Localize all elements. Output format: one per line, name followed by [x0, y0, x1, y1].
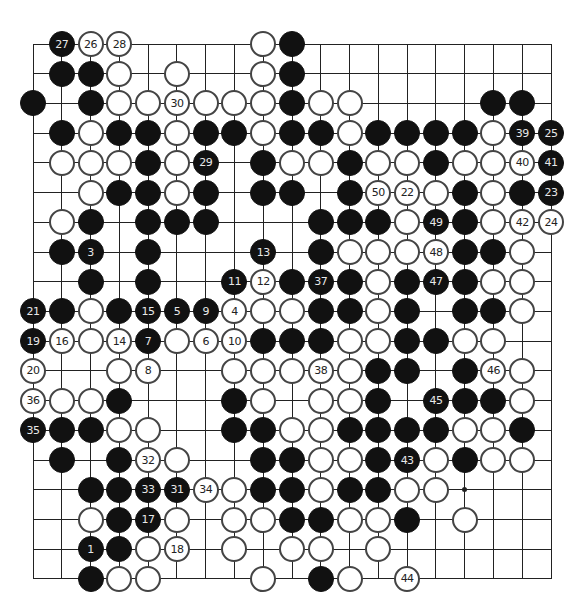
white-stone [509, 269, 535, 295]
white-stone: 38 [308, 358, 334, 384]
black-stone [452, 180, 478, 206]
white-stone [337, 507, 363, 533]
white-stone [337, 447, 363, 473]
white-stone [221, 507, 247, 533]
white-stone [394, 150, 420, 176]
black-stone [279, 269, 305, 295]
black-stone [308, 209, 334, 235]
black-stone [106, 298, 132, 324]
white-stone [423, 180, 449, 206]
black-stone [394, 358, 420, 384]
white-stone [279, 536, 305, 562]
black-stone [279, 477, 305, 503]
black-stone [135, 150, 161, 176]
white-stone [365, 239, 391, 265]
black-stone [337, 180, 363, 206]
black-stone [423, 120, 449, 146]
black-stone [279, 90, 305, 116]
white-stone: 40 [509, 150, 535, 176]
white-stone [423, 477, 449, 503]
black-stone: 41 [538, 150, 564, 176]
white-stone [250, 388, 276, 414]
white-stone [78, 120, 104, 146]
black-stone [394, 417, 420, 443]
white-stone: 14 [106, 328, 132, 354]
white-stone [78, 180, 104, 206]
black-stone [308, 239, 334, 265]
white-stone [452, 507, 478, 533]
white-stone [106, 61, 132, 87]
black-stone [250, 477, 276, 503]
white-stone [135, 566, 161, 592]
black-stone: 17 [135, 507, 161, 533]
white-stone [49, 388, 75, 414]
black-stone [480, 388, 506, 414]
white-stone: 46 [480, 358, 506, 384]
white-stone: 16 [49, 328, 75, 354]
black-stone [365, 447, 391, 473]
black-stone [452, 298, 478, 324]
white-stone [509, 447, 535, 473]
black-stone [394, 328, 420, 354]
black-stone [365, 417, 391, 443]
white-stone [221, 90, 247, 116]
white-stone [480, 328, 506, 354]
black-stone [308, 507, 334, 533]
black-stone [394, 507, 420, 533]
white-stone [452, 150, 478, 176]
black-stone [480, 298, 506, 324]
black-stone [365, 388, 391, 414]
white-stone [78, 388, 104, 414]
white-stone [164, 61, 190, 87]
black-stone [78, 417, 104, 443]
black-stone [106, 507, 132, 533]
white-stone: 48 [423, 239, 449, 265]
white-stone [221, 536, 247, 562]
black-stone [423, 328, 449, 354]
white-stone [480, 150, 506, 176]
white-stone [164, 447, 190, 473]
black-stone: 11 [221, 269, 247, 295]
black-stone [279, 328, 305, 354]
white-stone [308, 388, 334, 414]
black-stone [135, 239, 161, 265]
white-stone [49, 209, 75, 235]
white-stone [394, 209, 420, 235]
black-stone: 33 [135, 477, 161, 503]
black-stone: 39 [509, 120, 535, 146]
black-stone: 27 [49, 31, 75, 57]
white-stone [221, 477, 247, 503]
go-board: 2726283039252940415022234942243134811123… [0, 0, 577, 612]
white-stone [78, 298, 104, 324]
black-stone [250, 150, 276, 176]
black-stone [221, 120, 247, 146]
white-stone [106, 150, 132, 176]
black-stone [221, 417, 247, 443]
black-stone: 7 [135, 328, 161, 354]
black-stone [221, 388, 247, 414]
black-stone: 19 [20, 328, 46, 354]
black-stone [135, 269, 161, 295]
white-stone [164, 150, 190, 176]
white-stone [106, 417, 132, 443]
black-stone [337, 298, 363, 324]
white-stone [49, 150, 75, 176]
black-stone [279, 61, 305, 87]
black-stone: 25 [538, 120, 564, 146]
white-stone [365, 536, 391, 562]
black-stone [49, 61, 75, 87]
black-stone: 5 [164, 298, 190, 324]
white-stone [279, 417, 305, 443]
white-stone [509, 388, 535, 414]
white-stone [452, 328, 478, 354]
hoshi-point [462, 487, 467, 492]
black-stone [20, 90, 46, 116]
black-stone [193, 180, 219, 206]
white-stone [337, 566, 363, 592]
white-stone [480, 417, 506, 443]
white-stone [394, 239, 420, 265]
white-stone [337, 388, 363, 414]
black-stone [78, 209, 104, 235]
black-stone [49, 417, 75, 443]
black-stone: 15 [135, 298, 161, 324]
